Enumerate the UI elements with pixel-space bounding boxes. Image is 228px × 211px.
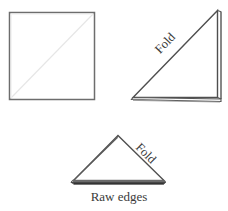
step-1-square-group [10,13,95,100]
raw-edges-label: Raw edges [91,189,148,204]
small-triangle-apex-cap [117,136,118,138]
step-2-triangle-group: Fold [132,11,222,103]
fold-label-top: Fold [152,30,179,57]
step-3-triangle-group: Fold Raw edges [71,136,166,205]
right-triangle-outline [133,11,218,98]
diagram-svg: Fold Fold Raw edges [0,0,228,211]
square-crease-line [10,13,94,99]
folding-diagram-canvas: Fold Fold Raw edges [0,0,228,211]
